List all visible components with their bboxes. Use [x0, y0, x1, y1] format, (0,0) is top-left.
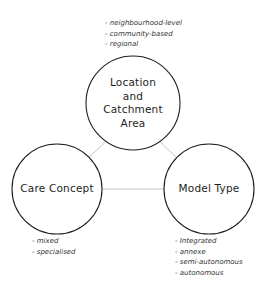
node-label-care: Care Concept — [12, 182, 102, 196]
node-label-line: Location — [93, 76, 173, 90]
attribute-list-care: mixed specialised — [32, 236, 76, 257]
node-label-line: Model Type — [164, 182, 254, 196]
attribute-item: autonomous — [175, 268, 243, 279]
attribute-item: community-based — [105, 29, 182, 40]
node-label-line: Catchment — [93, 103, 173, 117]
node-label-line: Care Concept — [12, 182, 102, 196]
node-label-location: Location and Catchment Area — [93, 76, 173, 130]
node-label-line: and — [93, 90, 173, 104]
attribute-item: regional — [105, 39, 182, 50]
attribute-item: annexe — [175, 247, 243, 258]
attribute-item: mixed — [32, 236, 76, 247]
attribute-item: semi-autonomous — [175, 257, 243, 268]
attribute-item: Integrated — [175, 236, 243, 247]
attribute-list-model: Integrated annexe semi-autonomous autono… — [175, 236, 243, 278]
node-label-model: Model Type — [164, 182, 254, 196]
attribute-item: specialised — [32, 247, 76, 258]
attribute-list-location: neighbourhood-level community-based regi… — [105, 18, 182, 50]
attribute-item: neighbourhood-level — [105, 18, 182, 29]
node-label-line: Area — [93, 117, 173, 131]
